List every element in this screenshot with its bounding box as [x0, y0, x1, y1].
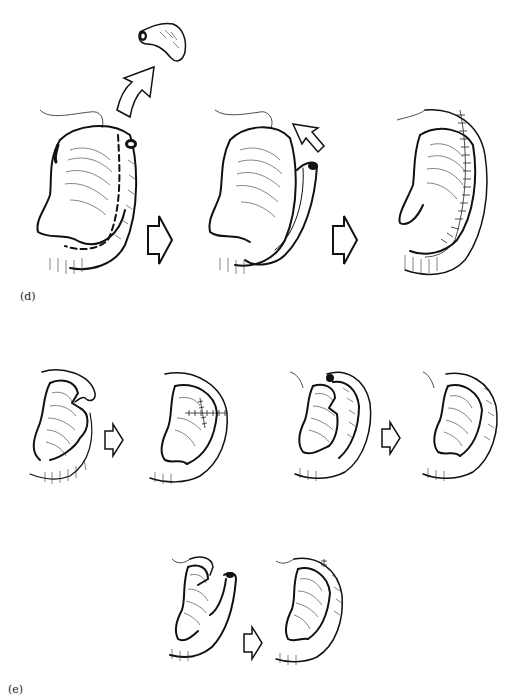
variant-c-after-illustration: [272, 555, 352, 675]
panel-d-label: (d): [20, 290, 36, 303]
right-arrow-icon: [242, 625, 264, 661]
variant-a-after-illustration: [145, 368, 235, 488]
panel-e: (e): [0, 340, 514, 693]
rotation-arrow-icon: [290, 118, 330, 158]
right-arrow-icon: [145, 214, 175, 266]
variant-a-before-illustration: [20, 368, 100, 488]
right-arrow-icon: [103, 422, 125, 458]
variant-b-before-illustration: [285, 368, 380, 488]
ear-step-3-illustration: [385, 105, 505, 285]
right-arrow-icon: [330, 214, 360, 266]
panel-e-label: (e): [8, 683, 23, 696]
panel-d: (d): [0, 0, 514, 300]
ear-step-1-illustration: [30, 100, 150, 280]
variant-c-before-illustration: [160, 555, 245, 675]
variant-b-after-illustration: [418, 368, 508, 488]
right-arrow-icon: [380, 420, 402, 456]
